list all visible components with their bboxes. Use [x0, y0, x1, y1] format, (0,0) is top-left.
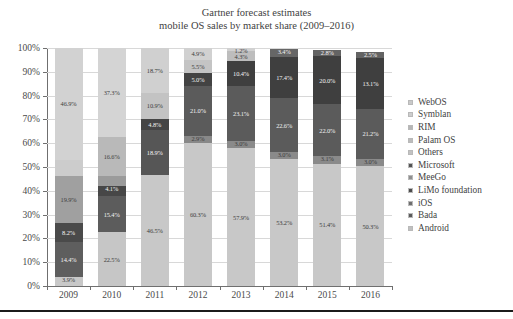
bar-2009[interactable]: 3.9%14.4%8.2%19.9%46.9%: [55, 48, 83, 286]
bar-segment-2014-bada[interactable]: 3.0%: [270, 152, 298, 159]
x-axis-tick: [392, 286, 393, 290]
x-axis-tick-label: 2009: [59, 290, 78, 300]
legend-item-meego[interactable]: MeeGo: [408, 172, 510, 185]
bar-2011[interactable]: 46.5%18.9%4.8%10.9%18.7%: [141, 48, 169, 286]
legend-swatch-icon: [408, 175, 413, 180]
bar-segment-2015-bada[interactable]: 3.1%: [313, 156, 341, 163]
bar-segment-2012-bada[interactable]: 2.9%: [184, 136, 212, 143]
bar-2016[interactable]: 50.3%3.0%21.2%13.1%2.5%: [356, 48, 384, 286]
legend-item-ios[interactable]: iOS: [408, 197, 510, 210]
bar-segment-2011-android[interactable]: 46.5%: [141, 175, 169, 286]
bar-2012[interactable]: 60.3%2.9%21.0%5.0%5.5%4.9%: [184, 48, 212, 286]
y-axis-tick: [43, 167, 47, 168]
segment-value-label: 22.6%: [276, 122, 292, 129]
bar-2010[interactable]: 22.5%15.4%4.1%16.6%37.3%: [98, 48, 126, 286]
bar-segment-2016-android[interactable]: 50.3%: [356, 166, 384, 286]
bar-segment-2011-microsoft[interactable]: 10.9%: [141, 93, 169, 119]
bottom-rule: [0, 310, 513, 312]
legend-label: RIM: [418, 122, 436, 133]
legend-swatch-icon: [408, 112, 413, 117]
legend-item-rim[interactable]: RIM: [408, 121, 510, 134]
bar-segment-2009-ios[interactable]: 8.2%: [55, 223, 83, 243]
segment-value-label: 4.8%: [148, 121, 161, 128]
legend-swatch-icon: [408, 150, 413, 155]
legend-swatch-icon: [408, 213, 413, 218]
bar-segment-2012-others[interactable]: 5.5%: [184, 60, 212, 73]
bar-segment-2011-others[interactable]: 18.7%: [141, 48, 169, 93]
y-axis-tick: [43, 72, 47, 73]
y-axis-tick-label: 20%: [23, 233, 40, 243]
bar-segment-2016-ios[interactable]: 21.2%: [356, 109, 384, 159]
bar-2015[interactable]: 51.4%3.1%22.0%20.0%2.8%: [313, 48, 341, 286]
bar-segment-2012-rim[interactable]: 4.9%: [184, 48, 212, 60]
bar-segment-2013-android[interactable]: 57.9%: [227, 148, 255, 286]
segment-value-label: 17.4%: [276, 74, 292, 81]
x-axis-tick-label: 2016: [361, 290, 380, 300]
legend-swatch-icon: [408, 201, 413, 206]
legend-swatch-icon: [408, 125, 413, 130]
y-axis-tick: [43, 262, 47, 263]
bar-segment-2012-ios[interactable]: 21.0%: [184, 86, 212, 136]
bar-segment-2016-bada[interactable]: 3.0%: [356, 159, 384, 166]
bar-segment-2013-bada[interactable]: 3.0%: [227, 141, 255, 148]
bar-segment-2010-microsoft[interactable]: [98, 176, 126, 186]
legend-item-microsoft[interactable]: Microsoft: [408, 159, 510, 172]
bar-segment-2009-others[interactable]: [55, 160, 83, 176]
legend-item-bada[interactable]: Bada: [408, 209, 510, 222]
bar-segment-2009-symblan[interactable]: 46.9%: [55, 48, 83, 160]
x-axis-tick-label: 2014: [275, 290, 294, 300]
bar-segment-2013-rim[interactable]: 1.2%: [227, 48, 255, 51]
legend-label: Android: [418, 223, 449, 234]
bar-segment-2013-ios[interactable]: 23.1%: [227, 86, 255, 141]
segment-value-label: 14.4%: [61, 256, 77, 263]
segment-value-label: 3.0%: [364, 158, 377, 165]
bar-segment-2015-others[interactable]: 2.8%: [313, 50, 341, 57]
bar-segment-2012-microsoft[interactable]: 5.0%: [184, 73, 212, 86]
segment-value-label: 23.1%: [233, 110, 249, 117]
bar-segment-2010-bada[interactable]: 15.4%: [98, 196, 126, 233]
bar-segment-2011-bada[interactable]: 18.9%: [141, 130, 169, 175]
segment-value-label: 18.9%: [147, 149, 163, 156]
legend-label: Bada: [418, 210, 437, 221]
legend-item-limo-foundation[interactable]: LiMo foundation: [408, 184, 510, 197]
bar-2013[interactable]: 57.9%3.0%23.1%10.4%4.3%1.2%: [227, 48, 255, 286]
legend-item-android[interactable]: Android: [408, 222, 510, 235]
segment-value-label: 46.5%: [147, 227, 163, 234]
segment-value-label: 22.0%: [319, 127, 335, 134]
bar-segment-2013-microsoft[interactable]: 10.4%: [227, 61, 255, 86]
legend-item-symblan[interactable]: Symblan: [408, 109, 510, 122]
y-axis-tick-label: 100%: [18, 43, 40, 53]
legend-label: WebOS: [418, 97, 447, 108]
segment-value-label: 37.3%: [104, 89, 120, 96]
y-axis-tick-label: 90%: [23, 67, 40, 77]
bar-segment-2014-ios[interactable]: 22.6%: [270, 98, 298, 152]
bar-segment-2014-android[interactable]: 53.2%: [270, 159, 298, 286]
legend-label: Palam OS: [418, 135, 455, 146]
bar-segment-2011-ios[interactable]: 4.8%: [141, 119, 169, 130]
bar-segment-2009-microsoft[interactable]: 19.9%: [55, 176, 83, 223]
bar-segment-2015-android[interactable]: 51.4%: [313, 164, 341, 286]
legend-item-palam-os[interactable]: Palam OS: [408, 134, 510, 147]
bar-segment-2010-ios[interactable]: 4.1%: [98, 186, 126, 196]
bar-segment-2010-symblan[interactable]: 37.3%: [98, 48, 126, 137]
bar-segment-2015-microsoft[interactable]: 20.0%: [313, 56, 341, 104]
bar-2014[interactable]: 53.2%3.0%22.6%17.4%3.4%: [270, 48, 298, 286]
bar-segment-2014-microsoft[interactable]: 17.4%: [270, 57, 298, 98]
bar-segment-2016-microsoft[interactable]: 13.1%: [356, 58, 384, 109]
x-axis-tick: [90, 286, 91, 290]
bar-segment-2009-android[interactable]: 3.9%: [55, 277, 83, 286]
y-axis-tick: [43, 215, 47, 216]
legend-item-others[interactable]: Others: [408, 146, 510, 159]
bar-segment-2010-others[interactable]: 16.6%: [98, 137, 126, 177]
bar-segment-2010-android[interactable]: 22.5%: [98, 232, 126, 286]
chart-title: Gartner forecast estimates mobile OS sal…: [0, 6, 513, 32]
bar-segment-2012-android[interactable]: 60.3%: [184, 143, 212, 287]
bar-segment-2016-others[interactable]: 2.5%: [356, 52, 384, 58]
bar-segment-2014-others[interactable]: 3.4%: [270, 49, 298, 57]
bar-segment-2015-ios[interactable]: 22.0%: [313, 104, 341, 156]
legend-item-webos[interactable]: WebOS: [408, 96, 510, 109]
x-axis-tick-label: 2013: [232, 290, 251, 300]
bar-segment-2009-bada[interactable]: 14.4%: [55, 242, 83, 276]
x-axis-tick: [47, 286, 48, 290]
y-axis-tick-label: 40%: [23, 186, 40, 196]
